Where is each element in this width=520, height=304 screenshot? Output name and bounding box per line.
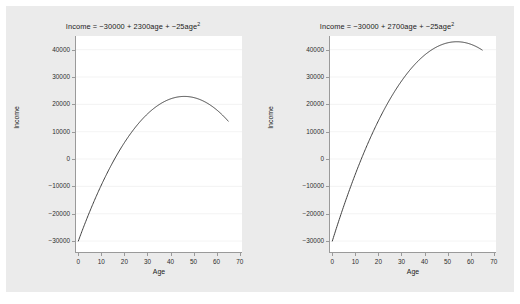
chart-title-right-exponent: 2 <box>451 21 454 27</box>
y-tick-label: −10000 <box>260 182 324 189</box>
y-tick-mark <box>72 159 75 160</box>
x-tick-label: 30 <box>391 258 411 265</box>
y-tick-mark <box>72 241 75 242</box>
y-tick-mark <box>72 186 75 187</box>
x-tick-mark <box>401 253 402 256</box>
y-tick-label: −30000 <box>6 237 70 244</box>
y-tick-label: 30000 <box>6 73 70 80</box>
y-axis-title-right: Income <box>267 88 274 148</box>
x-tick-mark <box>355 253 356 256</box>
y-axis-line-right <box>329 36 330 252</box>
x-tick-label: 10 <box>345 258 365 265</box>
y-tick-mark <box>326 186 329 187</box>
x-tick-label: 60 <box>207 258 227 265</box>
y-tick-mark <box>326 50 329 51</box>
plot-area-left <box>76 36 242 252</box>
y-tick-mark <box>326 77 329 78</box>
y-tick-mark <box>326 132 329 133</box>
y-tick-mark <box>326 241 329 242</box>
x-tick-label: 50 <box>438 258 458 265</box>
x-axis-title-left: Age <box>76 268 242 275</box>
y-tick-mark <box>72 50 75 51</box>
y-axis-line-left <box>75 36 76 252</box>
x-tick-mark <box>240 253 241 256</box>
x-tick-label: 20 <box>114 258 134 265</box>
chart-title-left-text: Income = −30000 + 2300age + −25age <box>66 22 197 31</box>
y-tick-label: −30000 <box>260 237 324 244</box>
y-tick-mark <box>326 214 329 215</box>
x-tick-mark <box>425 253 426 256</box>
plot-canvas-right <box>330 36 496 252</box>
x-tick-mark <box>124 253 125 256</box>
x-tick-label: 20 <box>368 258 388 265</box>
y-tick-mark <box>72 132 75 133</box>
x-tick-mark <box>448 253 449 256</box>
x-tick-mark <box>378 253 379 256</box>
x-tick-mark <box>147 253 148 256</box>
plot-canvas-left <box>76 36 242 252</box>
y-tick-label: 0 <box>6 155 70 162</box>
x-tick-mark <box>101 253 102 256</box>
plot-area-right <box>330 36 496 252</box>
x-tick-label: 60 <box>461 258 481 265</box>
chart-panel-right: Income = −30000 + 2700age + −25age2 −300… <box>260 6 514 292</box>
y-tick-label: 40000 <box>260 46 324 53</box>
y-tick-mark <box>72 214 75 215</box>
x-tick-label: 10 <box>91 258 111 265</box>
chart-title-left-exponent: 2 <box>197 21 200 27</box>
y-tick-mark <box>72 104 75 105</box>
x-tick-label: 50 <box>184 258 204 265</box>
y-tick-mark <box>72 77 75 78</box>
x-tick-mark <box>78 253 79 256</box>
x-tick-mark <box>171 253 172 256</box>
y-tick-label: 40000 <box>6 46 70 53</box>
x-tick-label: 0 <box>68 258 88 265</box>
chart-title-right: Income = −30000 + 2700age + −25age2 <box>260 22 514 31</box>
chart-panel-left: Income = −30000 + 2300age + −25age2 −300… <box>6 6 260 292</box>
chart-title-left: Income = −30000 + 2300age + −25age2 <box>6 22 260 31</box>
x-tick-label: 40 <box>161 258 181 265</box>
x-tick-label: 0 <box>322 258 342 265</box>
x-tick-mark <box>471 253 472 256</box>
x-axis-title-right: Age <box>330 268 496 275</box>
y-tick-mark <box>326 104 329 105</box>
y-tick-label: 0 <box>260 155 324 162</box>
x-tick-label: 30 <box>137 258 157 265</box>
x-tick-mark <box>194 253 195 256</box>
x-tick-mark <box>217 253 218 256</box>
y-tick-label: −10000 <box>6 182 70 189</box>
x-tick-label: 70 <box>230 258 250 265</box>
chart-title-right-text: Income = −30000 + 2700age + −25age <box>320 22 451 31</box>
x-tick-label: 40 <box>415 258 435 265</box>
y-tick-label: 30000 <box>260 73 324 80</box>
figure-container: Income = −30000 + 2300age + −25age2 −300… <box>0 0 520 304</box>
y-axis-title-left: Income <box>13 88 20 148</box>
y-tick-mark <box>326 159 329 160</box>
x-tick-label: 70 <box>484 258 504 265</box>
y-tick-label: −20000 <box>260 210 324 217</box>
y-tick-label: −20000 <box>6 210 70 217</box>
x-tick-mark <box>494 253 495 256</box>
x-tick-mark <box>332 253 333 256</box>
